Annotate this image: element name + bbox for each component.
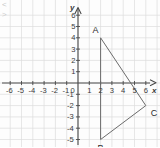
x-tick-label-4: 4	[121, 87, 125, 95]
x-tick-label-neg6: -6	[6, 87, 13, 95]
x-tick-label-1: 1	[87, 87, 91, 95]
y-tick-label-4: 4	[71, 34, 75, 42]
x-tick-label-neg5: -5	[17, 87, 24, 95]
x-tick-label-3: 3	[110, 87, 114, 95]
axes-group	[2, 8, 156, 146]
y-tick-label-neg5: -5	[67, 136, 74, 144]
x-tick-label-neg4: -4	[29, 87, 36, 95]
coordinate-grid-svg	[0, 0, 160, 147]
y-axis-name: y	[70, 4, 74, 12]
gridlines-group	[0, 0, 160, 147]
y-tick-label-2: 2	[71, 57, 75, 65]
x-tick-label-neg3: -3	[40, 87, 47, 95]
y-tick-label-1: 1	[71, 68, 75, 76]
y-tick-label-neg4: -4	[67, 125, 74, 133]
x-tick-label-2: 2	[99, 87, 103, 95]
y-tick-label-6: 6	[71, 12, 75, 20]
x-axis-name: x	[152, 87, 156, 95]
vertex-label-b: B	[98, 144, 104, 148]
y-tick-label-neg3: -3	[67, 113, 74, 121]
vertex-label-a: A	[93, 26, 99, 35]
x-tick-label-neg2: -2	[51, 87, 58, 95]
y-tick-label-neg2: -2	[67, 102, 74, 110]
coordinate-plane-figure: < > -6-5-4-3-2-11234560654321-1-2-3-4-5x…	[0, 0, 160, 147]
x-tick-label-5: 5	[132, 87, 136, 95]
y-tick-label-3: 3	[71, 46, 75, 54]
y-tick-label-5: 5	[71, 23, 75, 31]
y-tick-label-neg1: -1	[67, 91, 74, 99]
x-tick-label-6: 6	[144, 87, 148, 95]
vertex-label-c: C	[151, 109, 158, 118]
